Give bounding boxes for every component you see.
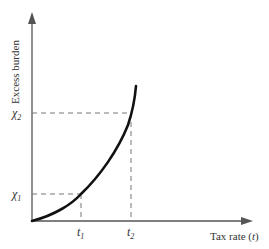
guide-lines — [32, 113, 131, 221]
excess-burden-curve — [32, 86, 136, 221]
chi1-label: χ1 — [11, 187, 21, 203]
t1-label: t1 — [77, 225, 84, 241]
t2-label: t2 — [127, 225, 134, 241]
y-axis-label: Excess burden — [9, 40, 21, 104]
x-axis-label: Tax rate (t) — [210, 230, 259, 243]
chi2-label: χ2 — [11, 106, 21, 122]
excess-burden-chart: Excess burden χ1 χ2 t1 t2 Tax rate (t) — [0, 0, 269, 249]
x-axis-arrow-icon — [241, 217, 253, 225]
y-axis-arrow-icon — [28, 12, 36, 24]
